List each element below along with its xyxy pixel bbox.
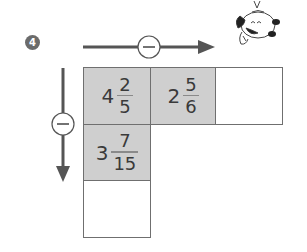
grid-cell-r1-c0: 3 7 15 [83,124,151,182]
numerator: 5 [183,76,198,95]
whole-part: 4 [101,84,114,108]
numerator: 7 [117,132,132,151]
denominator: 5 [117,96,132,116]
fraction: 2 5 [117,76,132,116]
fraction: 7 15 [111,132,138,172]
whole-part: 2 [167,84,180,108]
horizontal-minus-circle-icon [138,36,160,58]
mixed-number: 3 7 15 [96,132,139,172]
answer-blank-r0-c2[interactable] [215,67,283,125]
denominator: 6 [183,96,198,116]
cartoon-puppy-icon [236,1,280,44]
answer-blank-r2-c0[interactable] [83,180,151,238]
numerator: 2 [117,76,132,95]
grid-cell-r0-c1: 2 5 6 [150,67,217,125]
vertical-minus-circle-icon [52,113,74,135]
whole-part: 3 [96,141,109,165]
grid-cell-r0-c0: 4 2 5 [83,67,151,125]
mixed-number: 4 2 5 [101,76,132,116]
denominator: 15 [111,153,138,173]
fraction: 5 6 [183,76,198,116]
diagram-overlay [0,0,307,252]
mixed-number: 2 5 6 [167,76,198,116]
